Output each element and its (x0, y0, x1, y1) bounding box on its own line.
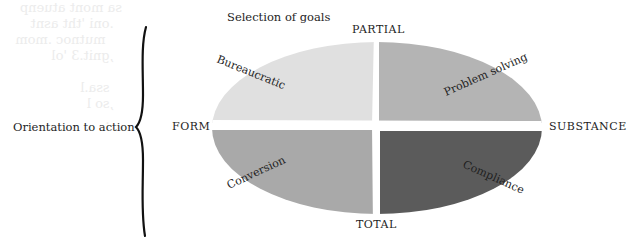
curly-brace-icon (136, 27, 146, 236)
quadrant-compliance (380, 131, 550, 231)
quadrant-bureaucratic (200, 30, 374, 123)
